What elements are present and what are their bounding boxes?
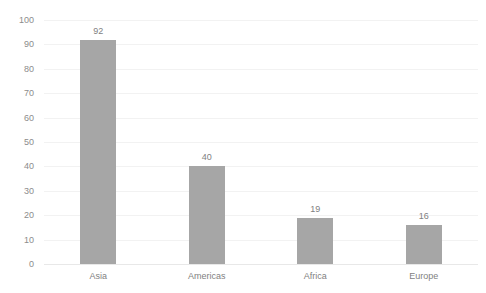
bar-group: 92: [80, 20, 116, 264]
y-axis-tick-label: 70: [0, 89, 34, 98]
bar[interactable]: [406, 225, 442, 264]
bar-value-label: 92: [93, 27, 103, 36]
bar-chart: 0102030405060708090100 92401916 AsiaAmer…: [0, 0, 486, 293]
y-axis-tick-label: 40: [0, 162, 34, 171]
y-axis-tick-label: 80: [0, 64, 34, 73]
bar-group: 40: [189, 20, 225, 264]
bar-value-label: 16: [419, 212, 429, 221]
y-axis-tick-label: 20: [0, 211, 34, 220]
bar[interactable]: [189, 166, 225, 264]
bar-series: 92401916: [44, 20, 478, 264]
x-axis-category-label: Asia: [89, 272, 107, 281]
bar-group: 19: [297, 20, 333, 264]
x-axis-category-label: Africa: [304, 272, 327, 281]
y-axis-tick-label: 10: [0, 235, 34, 244]
y-axis-tick-label: 50: [0, 138, 34, 147]
x-axis-category-label: Americas: [188, 272, 226, 281]
bar-value-label: 40: [202, 153, 212, 162]
y-axis-tick-label: 100: [0, 16, 34, 25]
y-axis-tick-label: 60: [0, 113, 34, 122]
bar-value-label: 19: [310, 205, 320, 214]
bar[interactable]: [80, 40, 116, 264]
bar[interactable]: [297, 218, 333, 264]
bar-group: 16: [406, 20, 442, 264]
y-axis-tick-label: 0: [0, 260, 34, 269]
y-axis-tick-label: 90: [0, 40, 34, 49]
x-axis-category-label: Europe: [409, 272, 438, 281]
gridline: [44, 264, 478, 265]
y-axis-tick-label: 30: [0, 186, 34, 195]
